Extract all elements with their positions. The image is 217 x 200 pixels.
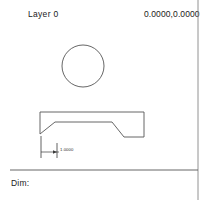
circle-entity[interactable] bbox=[62, 45, 104, 87]
linear-dimension-entity[interactable] bbox=[41, 136, 59, 158]
command-prompt-label[interactable]: Dim: bbox=[11, 179, 29, 188]
dimension-value-label: 1.0000 bbox=[60, 148, 73, 152]
drawing-canvas[interactable] bbox=[0, 0, 217, 200]
profile-outline-entity[interactable] bbox=[40, 112, 144, 137]
cad-application-window: Layer 0 0.0000,0.0000 1.0000 Dim: bbox=[0, 0, 217, 200]
dimension-arrowhead bbox=[53, 150, 57, 154]
